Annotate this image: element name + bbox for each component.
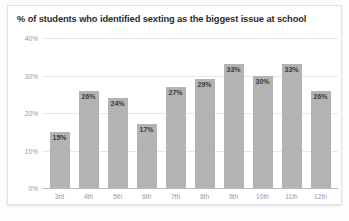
x-axis-tick-label: 9th xyxy=(219,193,248,200)
bar-slot: 26%4th xyxy=(74,38,103,188)
bar[interactable]: 26% xyxy=(79,91,99,189)
bar-series: 15%3rd26%4th24%5th17%6th27%7th29%8th33%9… xyxy=(42,38,338,188)
bar[interactable]: 15% xyxy=(50,132,70,188)
x-axis-tick-label: 10th xyxy=(248,193,277,200)
bar-value-label: 29% xyxy=(195,81,215,88)
x-axis-tick-label: 5th xyxy=(103,193,132,200)
y-axis-tick-label: 20% xyxy=(25,110,38,117)
x-axis-tick-label: 4th xyxy=(74,193,103,200)
y-axis-tick-label: 0% xyxy=(28,185,38,192)
bar-slot: 30%10th xyxy=(248,38,277,188)
bar-value-label: 30% xyxy=(253,78,273,85)
bar-value-label: 26% xyxy=(79,93,99,100)
bar[interactable]: 26% xyxy=(311,91,331,189)
bar[interactable]: 17% xyxy=(137,124,157,188)
y-axis-tick-label: 40% xyxy=(25,35,38,42)
bar[interactable]: 33% xyxy=(224,64,244,188)
bar[interactable]: 29% xyxy=(195,79,215,188)
x-axis-tick-label: 7th xyxy=(161,193,190,200)
bar[interactable]: 27% xyxy=(166,87,186,188)
x-axis-tick-label: 12th xyxy=(306,193,335,200)
bar-value-label: 15% xyxy=(50,134,70,141)
bar-value-label: 24% xyxy=(108,100,128,107)
bar-value-label: 33% xyxy=(224,66,244,73)
bar-slot: 27%7th xyxy=(161,38,190,188)
plot-area: 0%10%20%30%40% 15%3rd26%4th24%5th17%6th2… xyxy=(42,38,338,188)
chart-card: % of students who identified sexting as … xyxy=(7,5,342,205)
bar[interactable]: 30% xyxy=(253,76,273,189)
bar[interactable]: 24% xyxy=(108,98,128,188)
bar-slot: 29%8th xyxy=(190,38,219,188)
bar-slot: 17%6th xyxy=(132,38,161,188)
bar-value-label: 33% xyxy=(282,66,302,73)
bar-slot: 33%11th xyxy=(277,38,306,188)
x-axis-tick-label: 6th xyxy=(132,193,161,200)
bar-value-label: 27% xyxy=(166,89,186,96)
chart-title: % of students who identified sexting as … xyxy=(17,14,337,24)
x-axis-tick-label: 11th xyxy=(277,193,306,200)
x-axis-tick-label: 8th xyxy=(190,193,219,200)
bar-slot: 15%3rd xyxy=(45,38,74,188)
x-axis-tick-label: 3rd xyxy=(45,193,74,200)
screenshot-viewport: % of students who identified sexting as … xyxy=(0,0,349,221)
bar-slot: 24%5th xyxy=(103,38,132,188)
bar[interactable]: 33% xyxy=(282,64,302,188)
bar-value-label: 26% xyxy=(311,93,331,100)
axis-baseline: 0% xyxy=(42,188,338,189)
bar-value-label: 17% xyxy=(137,126,157,133)
bar-slot: 26%12th xyxy=(306,38,335,188)
y-axis-tick-label: 10% xyxy=(25,147,38,154)
bar-slot: 33%9th xyxy=(219,38,248,188)
y-axis-tick-label: 30% xyxy=(25,72,38,79)
